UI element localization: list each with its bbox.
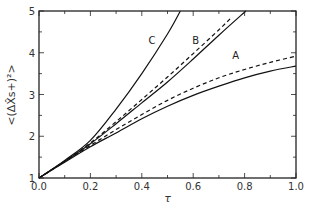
chart: 0.00.20.40.60.81.012345CBA τ <(ΔX̂s+)²> bbox=[0, 0, 311, 210]
y-tick-label: 3 bbox=[29, 90, 35, 101]
series-b-solid bbox=[39, 11, 246, 178]
y-tick-label: 4 bbox=[29, 48, 35, 59]
y-tick-label: 2 bbox=[29, 131, 35, 142]
x-tick-label: 0.2 bbox=[82, 181, 98, 192]
svg-text:<(ΔX̂s+)²>: <(ΔX̂s+)²> bbox=[5, 64, 18, 125]
y-axis-title: <(ΔX̂s+)²> bbox=[5, 64, 18, 125]
series-c-solid bbox=[39, 11, 180, 178]
labels: 0.00.20.40.60.81.012345CBA bbox=[29, 6, 304, 192]
series-b-dashed bbox=[39, 17, 232, 178]
curve-label-a: A bbox=[232, 50, 239, 61]
curve-label-c: C bbox=[149, 35, 156, 46]
y-tick-label: 5 bbox=[29, 6, 35, 17]
x-axis-title: τ bbox=[164, 192, 171, 205]
curves bbox=[39, 11, 296, 178]
x-tick-label: 0.8 bbox=[237, 181, 253, 192]
x-tick-label: 1.0 bbox=[288, 181, 304, 192]
series-a-solid bbox=[39, 66, 296, 178]
curve-label-b: B bbox=[192, 35, 199, 46]
x-tick-label: 0.4 bbox=[134, 181, 150, 192]
y-tick-label: 1 bbox=[29, 173, 35, 184]
x-tick-label: 0.6 bbox=[185, 181, 201, 192]
